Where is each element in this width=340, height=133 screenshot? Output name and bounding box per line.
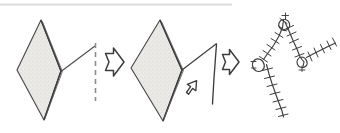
figure-root: Paper folding to stitched net transforma…: [0, 0, 340, 133]
figure-canvas: [0, 0, 340, 133]
